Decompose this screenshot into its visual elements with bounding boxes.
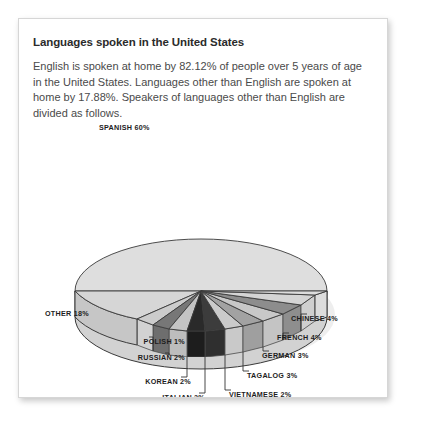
label-other: OTHER 18% bbox=[45, 309, 89, 318]
label-chinese: CHINESE 4% bbox=[291, 314, 338, 323]
label-russian: RUSSIAN 2% bbox=[83, 353, 185, 362]
label-tagalog: TAGALOG 3% bbox=[247, 371, 297, 380]
label-french: FRENCH 4% bbox=[277, 333, 322, 342]
label-vietnamese: VIETNAMESE 2% bbox=[229, 390, 291, 398]
info-card: Languages spoken in the United States En… bbox=[18, 18, 388, 398]
page-title: Languages spoken in the United States bbox=[33, 36, 244, 48]
pie-chart: SPANISH 60% OTHER 18% POLISH 1% RUSSIAN … bbox=[19, 119, 388, 398]
label-polish: POLISH 1% bbox=[93, 337, 185, 346]
label-spanish: SPANISH 60% bbox=[99, 123, 150, 132]
label-korean: KOREAN 2% bbox=[91, 377, 191, 386]
label-italian: ITALIAN 2% bbox=[105, 393, 205, 398]
pie-chart-graphic bbox=[19, 119, 388, 398]
label-german: GERMAN 3% bbox=[262, 351, 309, 360]
slice-spanish bbox=[75, 239, 327, 291]
intro-paragraph: English is spoken at home by 82.12% of p… bbox=[33, 59, 363, 121]
